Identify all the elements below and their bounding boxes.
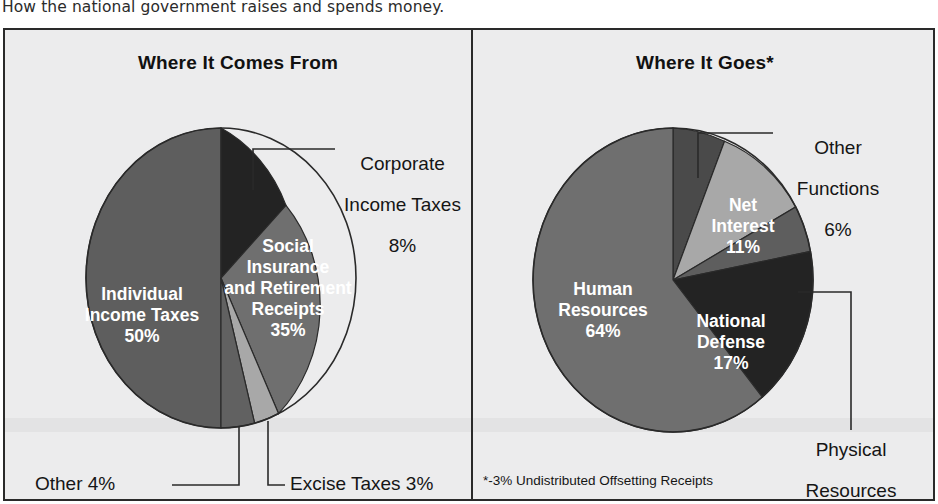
txt-hr-l1: Human xyxy=(573,279,632,299)
callout-excise-taxes: Excise Taxes 3% xyxy=(290,474,433,494)
panel-where-it-comes-from: Where It Comes From xyxy=(5,30,471,499)
svg-text:Defense: Defense xyxy=(697,332,765,352)
svg-text:64%: 64% xyxy=(585,321,620,341)
leader-line-other xyxy=(172,426,239,485)
callout-physical-resources: Physical Resources 5% xyxy=(791,420,911,504)
svg-text:11%: 11% xyxy=(726,237,760,257)
txt-ni-l2: Interest xyxy=(711,216,774,236)
txt-ind-l1: Individual xyxy=(101,284,183,304)
svg-text:Net: Net xyxy=(729,195,757,215)
svg-text:17%: 17% xyxy=(713,353,748,373)
svg-text:50%: 50% xyxy=(124,326,159,346)
leader-line-excise xyxy=(268,421,285,485)
callout-other: Other 4% xyxy=(35,474,115,494)
callout-otherfunc-l1: Other xyxy=(778,138,898,158)
txt-ni-l1: Net xyxy=(729,195,757,215)
svg-text:Resources: Resources xyxy=(558,300,648,320)
callout-corporate-l3: 8% xyxy=(340,236,465,256)
figure-root: How the national government raises and s… xyxy=(0,0,938,504)
svg-text:National: National xyxy=(696,311,765,331)
svg-text:Social: Social xyxy=(262,236,314,256)
svg-text:Insurance: Insurance xyxy=(247,257,330,277)
callout-otherfunc-l2: Functions xyxy=(778,179,898,199)
svg-text:and Retirement: and Retirement xyxy=(224,278,352,298)
svg-text:Receipts: Receipts xyxy=(252,299,325,319)
callout-other-functions: Other Functions 6% xyxy=(778,118,898,260)
slice-individual-income-taxes xyxy=(86,128,221,428)
figure-frame: Where It Comes From xyxy=(3,28,935,501)
txt-hr-l3: 64% xyxy=(585,321,620,341)
svg-text:Income Taxes: Income Taxes xyxy=(85,305,200,325)
txt-ind-l3: 50% xyxy=(124,326,159,346)
txt-soc-l4: Receipts xyxy=(252,299,325,319)
txt-ni-l3: 11% xyxy=(726,237,760,257)
txt-soc-l1: Social xyxy=(262,236,314,256)
txt-soc-l3: and Retirement xyxy=(224,278,352,298)
txt-hr-l2: Resources xyxy=(558,300,648,320)
txt-soc-l5: 35% xyxy=(270,320,305,340)
txt-nd-l2: Defense xyxy=(697,332,765,352)
svg-text:35%: 35% xyxy=(270,320,305,340)
txt-nd-l3: 17% xyxy=(713,353,748,373)
txt-nd-l1: National xyxy=(696,311,765,331)
txt-soc-l2: Insurance xyxy=(247,257,330,277)
callout-corporate-l2: Income Taxes xyxy=(340,195,465,215)
svg-text:Interest: Interest xyxy=(711,216,774,236)
right-panel-footnote: *-3% Undistributed Offsetting Receipts xyxy=(483,473,713,488)
figure-caption: How the national government raises and s… xyxy=(2,0,444,16)
callout-otherfunc-l3: 6% xyxy=(778,220,898,240)
callout-physres-l1: Physical xyxy=(791,440,911,460)
callout-physres-l2: Resources xyxy=(791,481,911,501)
callout-corporate-income-taxes: Corporate Income Taxes 8% xyxy=(340,134,465,276)
callout-corporate-l1: Corporate xyxy=(340,154,465,174)
svg-text:Human: Human xyxy=(573,279,632,299)
svg-text:Individual: Individual xyxy=(101,284,183,304)
txt-ind-l2: Income Taxes xyxy=(85,305,200,325)
panel-where-it-goes: Where It Goes* xyxy=(473,30,937,499)
